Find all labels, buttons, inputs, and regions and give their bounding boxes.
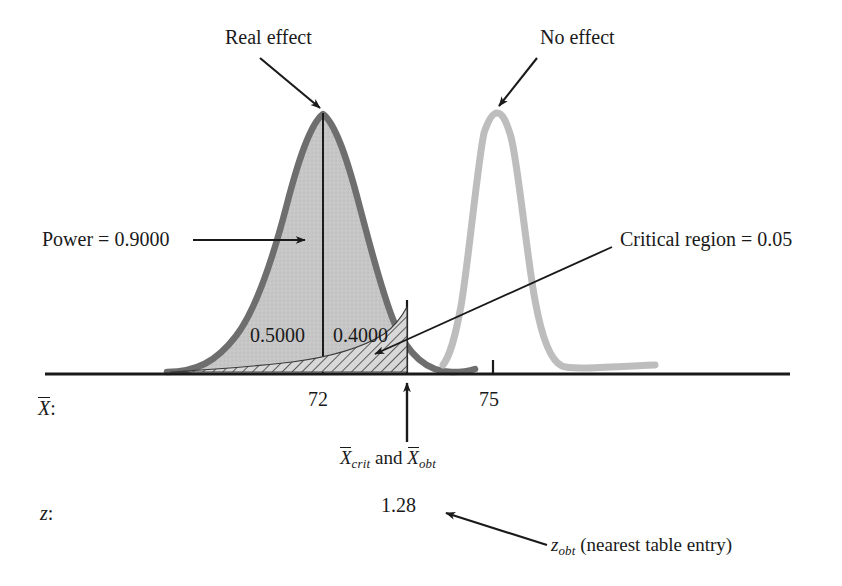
area-left-label: 0.5000 xyxy=(250,325,305,345)
area-right-label: 0.4000 xyxy=(333,325,388,345)
xcrit-conjunction: and xyxy=(375,447,402,468)
xbar-tick-label-75: 75 xyxy=(479,389,499,409)
z-tick-label-1-28: 1.28 xyxy=(381,495,416,515)
xcrit-symbol: X xyxy=(340,448,352,467)
z-symbol: z xyxy=(40,502,48,524)
real-effect-leader-arrow xyxy=(260,58,320,108)
power-distribution-figure: Real effect No effect Power = 0.9000 Cri… xyxy=(0,0,842,586)
xobt-symbol: X xyxy=(407,448,419,467)
zobt-callout: zobt (nearest table entry) xyxy=(551,535,732,558)
xbar-tick-label-72: 72 xyxy=(308,389,328,409)
z-colon: : xyxy=(48,502,54,524)
xcrit-and-xobt-callout: Xcrit and Xobt xyxy=(340,448,436,471)
critical-region-label: Critical region = 0.05 xyxy=(620,229,792,249)
zobt-note: (nearest table entry) xyxy=(580,534,732,555)
real-effect-label: Real effect xyxy=(225,27,312,47)
xobt-subscript: obt xyxy=(419,456,436,471)
critical-region-leader-arrow xyxy=(375,247,612,354)
no-effect-label: No effect xyxy=(540,27,615,47)
xbar-axis-label: X: xyxy=(38,398,56,418)
zobt-subscript: obt xyxy=(558,543,575,558)
xbar-colon: : xyxy=(50,397,56,419)
xcrit-subscript: crit xyxy=(352,456,371,471)
z-axis-label: z: xyxy=(40,503,53,523)
no-effect-leader-arrow xyxy=(499,58,537,106)
figure-canvas xyxy=(0,0,842,586)
power-label: Power = 0.9000 xyxy=(42,229,169,249)
xbar-symbol: X xyxy=(38,398,50,418)
zobt-leader-arrow xyxy=(446,513,547,545)
real-effect-distribution xyxy=(167,114,475,372)
